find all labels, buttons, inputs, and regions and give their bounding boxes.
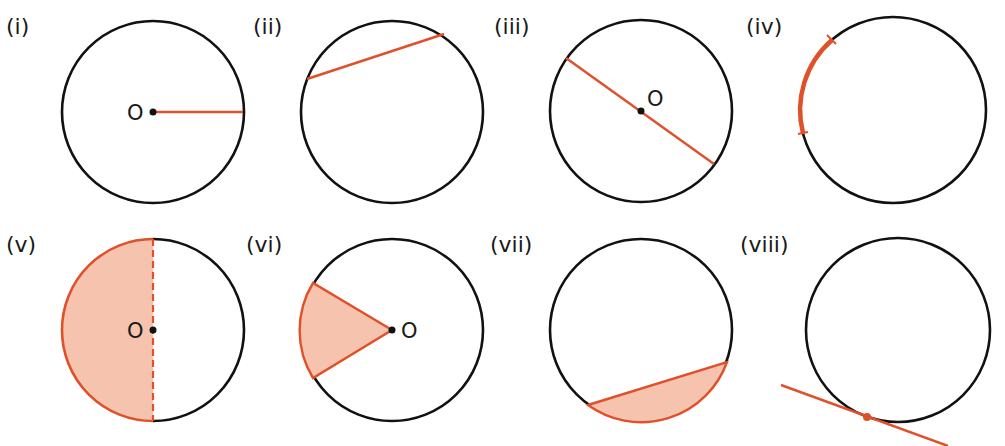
panel-arc: (iv) — [746, 14, 986, 203]
circle-outline — [153, 239, 244, 421]
centre-label: O — [647, 87, 664, 111]
panel-radius: (i) O — [6, 14, 244, 203]
panel-label: (ii) — [253, 14, 282, 39]
segment-shading — [588, 362, 727, 422]
panel-sector: (vi) O — [246, 232, 483, 421]
centre-point — [150, 327, 157, 334]
centre-point — [150, 109, 157, 116]
circle-parts-diagram: (i) O (ii) (iii) O (iv) (v) O (vi — [0, 0, 1005, 446]
arc-highlight — [800, 40, 832, 133]
centre-point — [638, 108, 645, 115]
centre-label: O — [127, 101, 144, 125]
panel-label: (iii) — [494, 14, 530, 39]
panel-semicircle: (v) O — [6, 232, 244, 421]
panel-label: (iv) — [746, 14, 782, 39]
panel-diameter: (iii) O — [494, 14, 732, 202]
panel-tangent: (viii) — [740, 232, 990, 446]
centre-label: O — [127, 319, 144, 343]
chord-line — [307, 34, 444, 79]
arc-end-tick — [798, 132, 808, 134]
circle-outline — [301, 21, 483, 203]
panel-label: (vi) — [246, 232, 282, 257]
panel-segment: (vii) — [490, 232, 732, 422]
circle-outline — [806, 238, 990, 422]
panel-label: (i) — [6, 14, 29, 39]
centre-label: O — [401, 319, 418, 343]
panel-label: (vii) — [490, 232, 532, 257]
panel-label: (viii) — [740, 232, 789, 257]
point-of-contact — [863, 413, 871, 421]
panel-chord: (ii) — [253, 14, 483, 203]
centre-point — [389, 327, 396, 334]
panel-label: (v) — [6, 232, 36, 257]
sector-shading — [300, 283, 392, 378]
